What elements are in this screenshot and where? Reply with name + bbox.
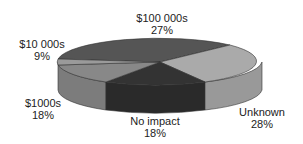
label-pct: 28% bbox=[239, 118, 285, 130]
label-10000s: $10 000s 9% bbox=[19, 38, 64, 62]
label-pct: 18% bbox=[25, 109, 61, 121]
label-pct: 9% bbox=[19, 50, 64, 62]
label-no-impact: No impact 18% bbox=[130, 115, 180, 139]
label-pct: 18% bbox=[130, 127, 180, 139]
label-100000s: $100 000s 27% bbox=[136, 12, 187, 36]
label-name: Unknown bbox=[239, 106, 285, 118]
label-pct: 27% bbox=[136, 24, 187, 36]
label-name: $1000s bbox=[25, 97, 61, 109]
label-1000s: $1000s 18% bbox=[25, 97, 61, 121]
pie-chart: $100 000s 27% Unknown 28% No impact 18% … bbox=[0, 0, 303, 144]
label-unknown: Unknown 28% bbox=[239, 106, 285, 130]
label-name: $100 000s bbox=[136, 12, 187, 24]
slice-side-no-impact bbox=[106, 82, 205, 113]
label-name: No impact bbox=[130, 115, 180, 127]
label-name: $10 000s bbox=[19, 38, 64, 50]
